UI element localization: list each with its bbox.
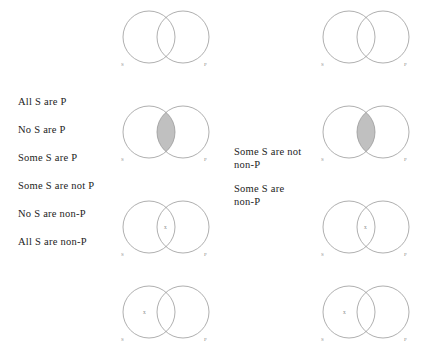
circle-label-s: S <box>321 337 324 342</box>
circle-label-s: S <box>321 62 324 67</box>
existential-mark-intersection: x <box>164 224 167 230</box>
circle-label-p: P <box>204 337 207 342</box>
shaded-region-intersection <box>357 112 375 151</box>
circle-label-p: P <box>404 157 407 162</box>
circle-label-s: S <box>321 157 324 162</box>
circle-s <box>323 286 375 338</box>
venn-diagram-figure: All S are P No S are P Some S are P Some… <box>0 0 431 357</box>
circle-label-p: P <box>204 157 207 162</box>
existential-mark-s-only: x <box>343 309 346 315</box>
circle-label-p: P <box>404 252 407 257</box>
proposition-all-s-are-non-p: All S are non-P <box>18 235 87 248</box>
venn-svg <box>120 103 212 169</box>
circle-p <box>157 11 209 63</box>
venn-svg <box>320 283 412 349</box>
venn-diagram-right-2: S P <box>320 103 412 169</box>
circle-label-s: S <box>121 337 124 342</box>
venn-diagram-left-2: S P <box>120 103 212 169</box>
proposition-some-s-are-not-p: Some S are not P <box>18 179 94 192</box>
venn-svg <box>320 8 412 74</box>
circle-s <box>323 11 375 63</box>
venn-svg <box>120 198 212 264</box>
circle-s <box>323 201 375 253</box>
circle-label-p: P <box>204 252 207 257</box>
venn-svg <box>120 283 212 349</box>
circle-s <box>123 286 175 338</box>
existential-mark-s-only: x <box>143 309 146 315</box>
circle-s <box>123 201 175 253</box>
circle-label-s: S <box>121 157 124 162</box>
circle-label-s: S <box>121 62 124 67</box>
proposition-no-s-are-non-p: No S are non-P <box>18 207 86 220</box>
circle-label-p: P <box>204 62 207 67</box>
circle-p <box>157 286 209 338</box>
circle-p <box>357 11 409 63</box>
proposition-no-s-are-p: No S are P <box>18 123 66 136</box>
venn-diagram-right-3: x S P <box>320 198 412 264</box>
proposition-some-s-are-p: Some S are P <box>18 151 77 164</box>
proposition-some-s-are-non-p: Some S are non-P <box>234 182 330 208</box>
venn-diagram-left-3: x S P <box>120 198 212 264</box>
circle-p <box>357 286 409 338</box>
shaded-region-intersection <box>157 112 175 151</box>
circle-label-s: S <box>121 252 124 257</box>
venn-svg <box>320 198 412 264</box>
circle-label-p: P <box>404 337 407 342</box>
circle-label-s: S <box>321 252 324 257</box>
venn-svg <box>320 103 412 169</box>
shaded-region-s-only <box>323 11 349 63</box>
venn-diagram-left-1: S P <box>120 8 212 74</box>
venn-diagram-right-1: S P <box>320 8 412 74</box>
venn-diagram-right-4: x S P <box>320 283 412 349</box>
proposition-some-s-are-not-non-p: Some S are not non-P <box>234 145 330 171</box>
existential-mark-intersection: x <box>364 224 367 230</box>
proposition-all-s-are-p: All S are P <box>18 95 67 108</box>
venn-svg <box>120 8 212 74</box>
circle-s <box>123 11 175 63</box>
circle-label-p: P <box>404 62 407 67</box>
venn-diagram-left-4: x S P <box>120 283 212 349</box>
shaded-region-s-only <box>123 11 149 63</box>
